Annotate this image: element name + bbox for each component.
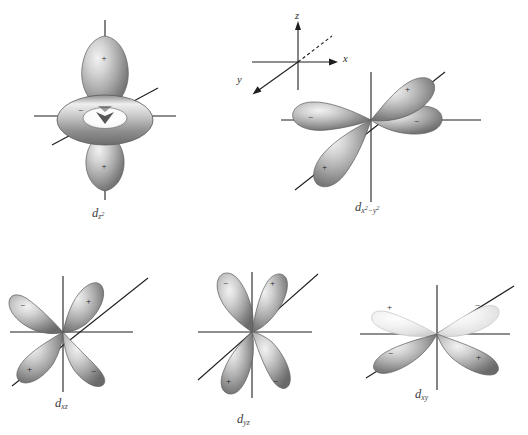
dyz-sign-lower-left: + — [226, 376, 231, 386]
dxy-lobe-lower-left — [374, 334, 437, 373]
dx2y2-axes — [281, 72, 481, 202]
dxy-lobe-upper-left — [372, 311, 437, 336]
caption-dyz-sub: yz — [243, 418, 249, 427]
caption-dxy-sub: xy — [421, 393, 428, 402]
dx2y2-sign-left: − — [308, 112, 313, 122]
caption-dx2-y2: dx2−y2 — [355, 200, 379, 215]
caption-dxz: dxz — [55, 396, 68, 411]
dxz-lobe-upper-left — [9, 295, 63, 334]
dz2-sign-torus: − — [78, 105, 83, 115]
dyz-sign-upper-right: + — [270, 278, 275, 288]
caption-dz2: dz2 — [92, 206, 104, 221]
orbital-dx2-y2-graphic: + − − + — [277, 66, 507, 206]
orbital-dxz-graphic: − + + − — [8, 272, 203, 397]
caption-dxy: dxy — [415, 387, 428, 402]
orbital-dx2-y2: + − − + — [277, 66, 507, 206]
axis-label-x: x — [343, 53, 348, 64]
dyz-sign-upper-left: − — [223, 278, 228, 288]
caption-dxz-sub: xz — [61, 402, 67, 411]
axis-z-arrowhead — [295, 21, 301, 30]
dxy-sign-upper-right: − — [475, 300, 480, 310]
dxz-lobe-lower-right — [63, 332, 105, 387]
dz2-sign-up: + — [102, 53, 107, 63]
orbital-dxy-graphic: + − − + — [352, 282, 524, 394]
dxy-sign-lower-right: + — [476, 352, 481, 362]
dx2y2-sign-lower-left: + — [322, 162, 327, 172]
dxz-sign-lower-left: + — [27, 364, 32, 374]
axis-y-arrowhead — [253, 86, 262, 94]
axis-label-z: z — [295, 10, 299, 21]
dxy-sign-lower-left: − — [388, 348, 393, 358]
d-orbital-figure: + − + dz2 z x y — [0, 0, 528, 435]
dxy-lobe-upper-right — [437, 306, 499, 337]
dxz-lobe-lower-left — [17, 332, 63, 383]
dxy-lobe-lower-right — [437, 334, 498, 375]
dxz-sign-upper-right: + — [86, 296, 91, 306]
orbital-dz2-graphic: + − + — [18, 12, 193, 207]
axis-x-arrowhead — [329, 59, 338, 66]
orbital-dxy: + − − + — [352, 282, 524, 394]
dx2y2-sign-right: − — [414, 116, 419, 126]
dxz-sign-upper-left: − — [20, 300, 25, 310]
axis-label-y: y — [237, 74, 242, 85]
caption-dz2-sup: 2 — [101, 210, 104, 217]
dyz-lobe-lower-right — [252, 332, 290, 388]
dx2y2-sign-upper-right: + — [405, 84, 410, 94]
axis-diagonal-dashed — [298, 36, 332, 62]
dz2-sign-down: + — [102, 161, 107, 171]
orbital-dyz: − + + − — [196, 270, 351, 400]
caption-dyz: dyz — [237, 412, 250, 427]
orbital-dz2: + − + — [18, 12, 193, 207]
orbital-dyz-graphic: − + + − — [196, 270, 351, 400]
dyz-sign-lower-right: − — [273, 376, 278, 386]
dxy-sign-upper-left: + — [387, 302, 392, 312]
dxz-lobe-upper-right — [63, 283, 104, 333]
caption-dx2y2-sup2: 2 — [376, 204, 379, 211]
orbital-dxz: − + + − — [8, 272, 203, 397]
dxz-sign-lower-right: − — [91, 366, 96, 376]
